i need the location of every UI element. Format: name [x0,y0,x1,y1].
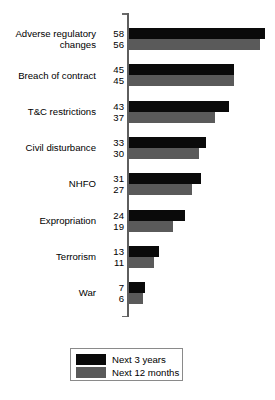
legend-label-next-3-years: Next 3 years [112,353,166,366]
bar-next-3-years [129,101,230,112]
bar-next-3-years [129,137,206,148]
category-label: War [0,287,96,298]
category-label: Civil disturbance [0,142,96,153]
bar-value-label: 7 [106,282,124,293]
legend-swatch-icon-next-3-years [76,354,106,365]
bar-next-12-months [129,184,192,195]
bar-value-label: 37 [106,112,124,123]
bar-next-12-months [129,148,199,159]
bar-value-label: 43 [106,101,124,112]
category-label: Terrorism [0,251,96,262]
bar-value-label: 45 [106,75,124,86]
bar-value-label: 30 [106,148,124,159]
category-label: NHFO [0,178,96,189]
category-label: Expropriation [0,215,96,226]
bar-group: Breach of contract4545 [0,64,275,86]
category-label: Breach of contract [0,70,96,81]
bar-chart: Adverse regulatory changes5856Breach of … [0,0,275,400]
legend-item-next-3-years: Next 3 years [76,353,180,366]
bar-group: Terrorism1311 [0,246,275,268]
bar-value-label: 11 [106,257,124,268]
bar-next-3-years [129,173,202,184]
bar-value-label: 31 [106,173,124,184]
bar-next-3-years [129,282,145,293]
plot-area: Adverse regulatory changes5856Breach of … [0,0,275,330]
bar-value-label: 27 [106,184,124,195]
bar-group: Expropriation2419 [0,210,275,232]
bar-group: NHFO3127 [0,173,275,195]
legend-item-next-12-months: Next 12 months [76,366,180,379]
bar-group: Adverse regulatory changes5856 [0,28,275,50]
bar-value-label: 6 [106,293,124,304]
bar-next-12-months [129,75,235,86]
bar-group: T&C restrictions4337 [0,101,275,123]
bar-value-label: 33 [106,137,124,148]
legend-swatch-icon-next-12-months [76,367,106,378]
bar-value-label: 56 [106,39,124,50]
bar-next-12-months [129,39,260,50]
bar-next-3-years [129,210,185,221]
bar-next-3-years [129,28,265,39]
bar-groups: Adverse regulatory changes5856Breach of … [0,0,275,330]
bar-next-12-months [129,293,143,304]
category-label: Adverse regulatory changes [0,28,96,51]
legend-label-next-12-months: Next 12 months [112,366,179,379]
bar-next-3-years [129,64,235,75]
bar-value-label: 45 [106,64,124,75]
bar-value-label: 13 [106,246,124,257]
bar-next-12-months [129,221,174,232]
chart-legend: Next 3 years Next 12 months [70,348,183,381]
bar-value-label: 24 [106,210,124,221]
bar-next-12-months [129,257,155,268]
bar-group: War76 [0,282,275,304]
bar-value-label: 58 [106,28,124,39]
bar-value-label: 19 [106,221,124,232]
category-label: T&C restrictions [0,106,96,117]
bar-group: Civil disturbance3330 [0,137,275,159]
bar-next-3-years [129,246,159,257]
bar-next-12-months [129,112,216,123]
